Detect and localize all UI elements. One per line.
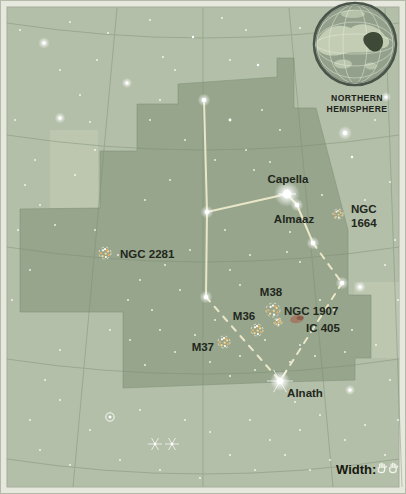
cluster-star-dot [100, 252, 102, 254]
cluster-star-dot [337, 210, 339, 212]
star [179, 289, 181, 291]
cluster-star-dot [220, 344, 222, 346]
star [314, 355, 316, 357]
cluster-star-dot [335, 211, 337, 213]
star [289, 361, 291, 363]
star [343, 131, 347, 135]
star [17, 229, 19, 231]
cluster-star-dot [260, 331, 262, 333]
named-star-alnath [277, 378, 283, 384]
cluster-star-dot [256, 325, 258, 327]
cluster-star-dot [224, 345, 226, 347]
cluster-star-dot [267, 309, 269, 311]
cluster-star-dot [278, 324, 280, 326]
star [319, 299, 321, 301]
star [229, 454, 231, 456]
star [192, 36, 194, 38]
star [289, 231, 291, 233]
named-star-almaaz [295, 203, 300, 208]
star [389, 181, 391, 183]
cluster-star-dot [340, 215, 342, 217]
cluster-star-dot [276, 307, 278, 309]
star [384, 454, 386, 456]
map-label-ngc1664-line1: NGC [351, 203, 377, 215]
star [299, 344, 301, 346]
star [29, 419, 31, 421]
cluster-star-dot [224, 342, 226, 344]
cluster-star-dot [227, 343, 229, 345]
star [154, 443, 157, 446]
cluster-star-dot [269, 313, 271, 315]
star [125, 81, 128, 84]
star [129, 339, 131, 341]
star [389, 379, 391, 381]
star [42, 41, 46, 45]
star [348, 388, 351, 391]
star [254, 369, 256, 371]
cluster-star-dot [258, 326, 260, 328]
star [162, 56, 164, 58]
star [89, 121, 91, 123]
star [397, 299, 399, 301]
cluster-star-dot [269, 306, 271, 308]
map-label-alnath: Alnath [287, 387, 323, 399]
star [245, 149, 247, 151]
star-map-page: CapellaAlmaazNGC1664NGC 2281M38M36M37NGC… [0, 0, 406, 494]
star [299, 261, 301, 263]
cluster-star-dot [278, 322, 280, 324]
star [174, 351, 176, 353]
cluster-star-dot [102, 249, 104, 251]
star [11, 299, 13, 301]
star [189, 249, 191, 251]
cluster-star-dot [280, 322, 282, 324]
star [139, 279, 141, 281]
star [384, 95, 387, 98]
cluster-star-dot [219, 341, 221, 343]
star [229, 59, 231, 61]
star [159, 99, 161, 101]
cluster-star-dot [338, 216, 340, 218]
star [286, 251, 288, 253]
star [299, 429, 301, 431]
star [221, 17, 223, 19]
cluster-star-dot [108, 254, 110, 256]
star [54, 224, 56, 226]
cluster-star-dot [221, 338, 223, 340]
star [107, 32, 109, 34]
cluster-star-dot [334, 213, 336, 215]
star [34, 159, 36, 161]
star [194, 334, 196, 336]
star [59, 69, 61, 71]
star [144, 199, 146, 201]
star [14, 119, 16, 121]
star [79, 94, 81, 96]
named-star-menkalinan [205, 210, 210, 215]
star [257, 64, 259, 66]
inset-title-line1: NORTHERN [331, 93, 383, 103]
star [69, 21, 71, 23]
star [249, 419, 251, 421]
star [209, 431, 211, 433]
star [374, 119, 376, 121]
map-label-m36: M36 [233, 310, 255, 322]
star [261, 109, 263, 111]
star [59, 349, 61, 351]
star [184, 139, 186, 141]
star [119, 459, 121, 461]
star [214, 159, 216, 161]
cluster-star-dot [252, 329, 254, 331]
star [229, 375, 231, 377]
named-star-capella [283, 190, 292, 199]
star [229, 269, 231, 271]
star [96, 59, 98, 61]
named-star-theta-aur [204, 295, 209, 300]
star [94, 229, 96, 231]
star [229, 119, 232, 122]
cluster-star-dot [225, 338, 227, 340]
cluster-star-dot [273, 314, 275, 316]
star [394, 239, 396, 241]
star [144, 364, 146, 366]
star [171, 443, 174, 446]
star [284, 454, 286, 456]
constellation-line-solid [206, 212, 207, 297]
